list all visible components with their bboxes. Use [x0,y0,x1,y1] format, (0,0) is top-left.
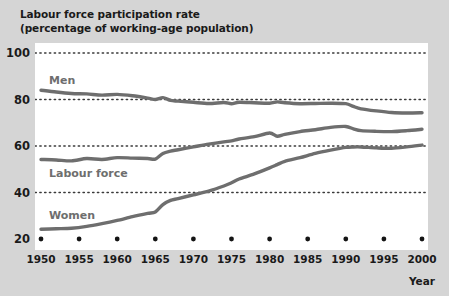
y-tick-label-20: 20 [2,232,30,246]
x-tick-dot [153,237,158,242]
x-tick-dot [229,237,234,242]
x-tick-label-1990: 1990 [326,253,366,265]
y-tick-label-100: 100 [2,46,30,60]
x-tick-label-1985: 1985 [288,253,328,265]
x-tick-dot [267,237,272,242]
series-label-labour-force: Labour force [49,167,128,180]
series-label-men: Men [49,74,75,87]
x-tick-dot [343,237,348,242]
x-tick-label-2000: 2000 [402,253,442,265]
chart-title-line-2: (percentage of working-age population) [20,22,420,36]
x-tick-label-1980: 1980 [250,253,290,265]
chart-title: Labour force participation rate (percent… [20,8,420,35]
series-line-men [41,90,422,113]
x-tick-dot [305,237,310,242]
x-tick-label-1950: 1950 [21,253,61,265]
x-tick-dot [39,237,44,242]
x-tick-dot [382,237,387,242]
y-tick-label-80: 80 [2,93,30,107]
x-tick-dot [191,237,196,242]
x-tick-label-1965: 1965 [135,253,175,265]
chart-title-line-1: Labour force participation rate [20,8,420,22]
x-tick-dot [115,237,120,242]
x-tick-dot [420,237,425,242]
y-tick-label-60: 60 [2,139,30,153]
series-line-labour-force [41,126,422,160]
chart-figure: Labour force participation rate (percent… [0,0,449,296]
x-tick-label-1970: 1970 [173,253,213,265]
y-tick-label-40: 40 [2,186,30,200]
x-tick-label-1975: 1975 [212,253,252,265]
x-tick-label-1995: 1995 [364,253,404,265]
x-axis-title: Year [409,275,435,287]
x-tick-dot [77,237,82,242]
x-tick-label-1955: 1955 [59,253,99,265]
series-label-women: Women [49,209,95,222]
x-tick-label-1960: 1960 [97,253,137,265]
